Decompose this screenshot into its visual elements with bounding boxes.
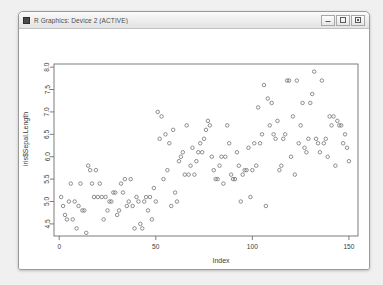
svg-text:7.0: 7.0: [44, 107, 51, 116]
svg-text:5.0: 5.0: [44, 197, 51, 206]
window-title: R Graphics: Device 2 (ACTIVE): [34, 17, 321, 24]
svg-text:8.0: 8.0: [44, 62, 51, 71]
plot-ticks-x: [59, 236, 349, 240]
graphics-device-canvas[interactable]: 4.55.05.56.06.57.07.58.0050100150 Index …: [19, 29, 369, 270]
svg-text:50: 50: [152, 243, 160, 250]
y-axis-title: iris$Sepal.Length: [22, 112, 30, 166]
window-controls: [321, 15, 365, 26]
svg-text:7.5: 7.5: [44, 85, 51, 94]
r-graphics-window: R Graphics: Device 2 (ACTIVE) 4.55.05: [18, 11, 370, 270]
plot-points: [59, 70, 350, 235]
svg-text:6.5: 6.5: [44, 129, 51, 138]
scatter-plot: 4.55.05.56.06.57.07.58.0050100150 Index …: [19, 29, 369, 270]
maximize-icon[interactable]: [336, 15, 350, 26]
svg-text:5.5: 5.5: [44, 174, 51, 183]
close-icon[interactable]: [351, 15, 365, 26]
plot-tick-labels: 4.55.05.56.06.57.07.58.0050100150: [44, 62, 355, 250]
plot-ticks-y: [50, 67, 54, 224]
svg-text:0: 0: [57, 243, 61, 250]
svg-text:4.5: 4.5: [44, 219, 51, 228]
minimize-icon[interactable]: [321, 15, 335, 26]
screen: R Graphics: Device 2 (ACTIVE) 4.55.05: [0, 0, 383, 285]
svg-text:150: 150: [343, 243, 354, 250]
r-graphics-icon: [23, 17, 30, 24]
window-titlebar[interactable]: R Graphics: Device 2 (ACTIVE): [19, 12, 369, 29]
plot-frame: [54, 64, 358, 236]
svg-text:100: 100: [247, 243, 258, 250]
x-axis-title: Index: [212, 257, 230, 264]
svg-text:6.0: 6.0: [44, 152, 51, 161]
